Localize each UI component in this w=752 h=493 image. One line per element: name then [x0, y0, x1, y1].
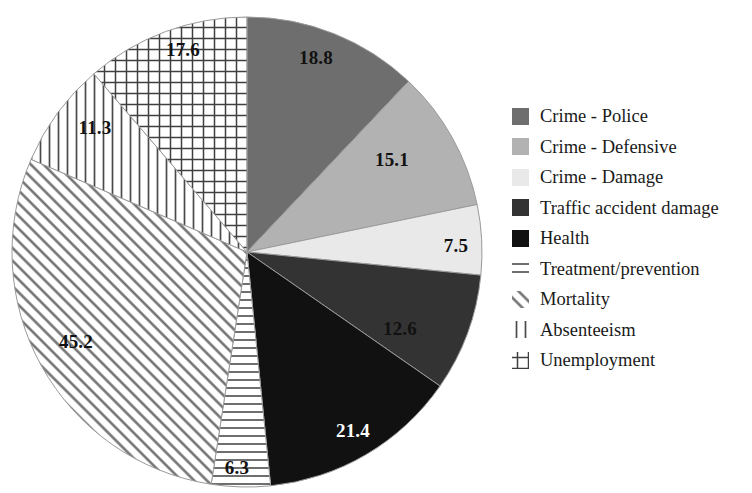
chart-legend: Crime - PoliceCrime - DefensiveCrime - D…: [512, 101, 748, 376]
legend-item-label: Crime - Police: [540, 107, 648, 126]
solid-light-gray-swatch: [512, 138, 529, 155]
solid-pale-gray-swatch: [512, 169, 529, 186]
legend-item-label: Unemployment: [540, 351, 655, 370]
solid-black-swatch: [512, 230, 529, 247]
pie-slice-value-label: 7.5: [444, 235, 468, 256]
legend-item-label: Health: [540, 229, 589, 248]
pie-slice-value-label: 15.1: [375, 149, 409, 170]
pie-chart-figure: 18.815.17.512.621.46.345.211.317.6 Crime…: [0, 0, 752, 493]
legend-item-label: Crime - Defensive: [540, 138, 677, 157]
legend-item[interactable]: Absenteeism: [512, 315, 748, 346]
pie-slice-value-label: 18.8: [299, 47, 333, 68]
crosshatch-grid-swatch: [512, 352, 529, 369]
legend-item-label: Treatment/prevention: [540, 260, 700, 279]
diagonal-lines-swatch: [512, 291, 529, 308]
solid-darker-gray-swatch: [512, 199, 529, 216]
legend-item[interactable]: Treatment/prevention: [512, 254, 748, 285]
vertical-lines-swatch: [512, 321, 529, 338]
legend-item-label: Traffic accident damage: [540, 199, 719, 218]
legend-item[interactable]: Crime - Damage: [512, 162, 748, 193]
pie-slice-value-label: 45.2: [59, 331, 93, 352]
legend-item-label: Crime - Damage: [540, 168, 663, 187]
legend-item[interactable]: Mortality: [512, 284, 748, 315]
pie-chart-plot-area: 18.815.17.512.621.46.345.211.317.6: [0, 0, 500, 493]
legend-item[interactable]: Unemployment: [512, 345, 748, 376]
legend-item[interactable]: Health: [512, 223, 748, 254]
solid-dark-gray-swatch: [512, 108, 529, 125]
legend-item[interactable]: Crime - Police: [512, 101, 748, 132]
pie-slice-value-label: 17.6: [166, 39, 200, 60]
horizontal-lines-swatch: [512, 260, 529, 277]
pie-slice-value-label: 21.4: [336, 420, 370, 441]
pie-slice-value-label: 6.3: [225, 457, 249, 478]
pie-slice-value-label: 12.6: [383, 318, 417, 339]
pie-chart-svg: 18.815.17.512.621.46.345.211.317.6: [0, 0, 500, 493]
pie-slices-group: [12, 17, 482, 487]
legend-item[interactable]: Traffic accident damage: [512, 193, 748, 224]
pie-slice-value-label: 11.3: [78, 117, 111, 138]
legend-item-label: Mortality: [540, 290, 610, 309]
legend-item-label: Absenteeism: [540, 321, 636, 340]
legend-item[interactable]: Crime - Defensive: [512, 132, 748, 163]
